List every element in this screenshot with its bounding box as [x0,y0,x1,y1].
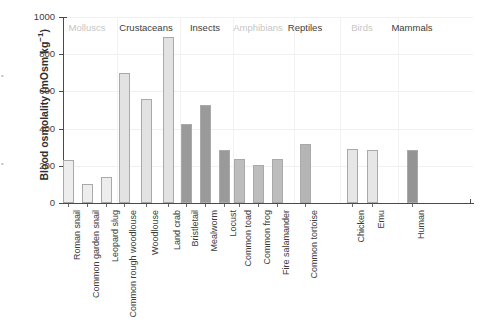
category-label: Roman snail [72,210,82,260]
x-axis-tick [305,204,306,207]
bar [82,184,93,203]
y-axis-title-exponent: −1 [36,33,45,42]
category-label: Human [416,210,426,239]
x-axis-tick [352,204,353,207]
y-axis-tick [59,91,64,92]
x-axis-tick [277,204,278,207]
category-label: Common toad [243,210,253,267]
bar [181,124,192,203]
x-axis-tick [239,204,240,207]
bar [253,165,264,203]
y-axis-tick-label: 400 [15,123,55,134]
category-label: Land crab [172,210,182,250]
x-axis-tick [146,204,147,207]
category-label: Fire salamander [281,210,291,275]
x-axis-tick [412,204,413,207]
y-axis-tick-label: 800 [15,48,55,59]
category-label: Chicken [356,210,366,243]
group-divider [398,17,399,203]
x-axis-tick [205,204,206,207]
gridline [64,54,473,55]
group-title: Mammals [391,22,432,33]
bar [141,99,152,203]
y-axis-title-paren: ) [38,29,50,33]
y-axis-tick [59,17,64,18]
bar [300,144,311,203]
x-axis-tick [372,204,373,207]
group-divider [294,17,295,203]
y-axis-tick-label: 200 [15,160,55,171]
group-divider [340,17,341,203]
bar [119,73,130,203]
blood-osmolality-bar-chart: • • Blood osmolality (mOsm kg−1) 0200400… [0,0,480,329]
group-title: Insects [190,22,220,33]
category-label: Leopard slug [110,210,120,262]
bar [347,149,358,203]
y-axis-tick [59,129,64,130]
category-label: Common rough woodlouse [128,210,138,318]
category-label: Mealworm [209,210,219,252]
group-title: Crustaceans [119,22,172,33]
x-axis-tick [87,204,88,207]
category-label: Common frog [262,210,272,265]
category-label: Bristletail [190,210,200,247]
x-axis-tick [68,204,69,207]
cropped-edge-artifact-bottom: • [1,160,3,167]
y-axis-tick [59,203,64,204]
x-axis-tick [124,204,125,207]
x-axis-tick [258,204,259,207]
bar [163,37,174,203]
group-title: Amphibians [233,22,283,33]
x-axis-tick [168,204,169,207]
bar [367,150,378,203]
bar [63,160,74,203]
y-axis-title: Blood osmolality (mOsm kg−1) [36,10,50,200]
category-label: Woodlouse [150,210,160,255]
y-axis-tick-label: 600 [15,85,55,96]
group-title: Birds [351,22,373,33]
x-axis-tick [224,204,225,207]
category-label: Locust [228,210,238,237]
bar [101,177,112,203]
group-title: Reptiles [288,22,322,33]
cropped-edge-artifact-top: • [1,72,3,79]
group-title: Molluscs [69,22,106,33]
x-axis-tick [186,204,187,207]
bar [234,159,245,203]
category-label: Common garden snail [91,210,101,298]
bar [219,150,230,203]
category-label: Common tortoise [309,210,319,279]
y-axis-tick-label: 0 [15,197,55,208]
category-label: Emu [376,210,386,229]
bar [272,159,283,203]
bar [200,105,211,203]
y-axis-tick [59,54,64,55]
gridline [64,17,473,18]
y-axis-tick-label: 1000 [15,11,55,22]
x-axis-right-cap [470,199,471,204]
bar [407,150,418,203]
x-axis-tick [106,204,107,207]
